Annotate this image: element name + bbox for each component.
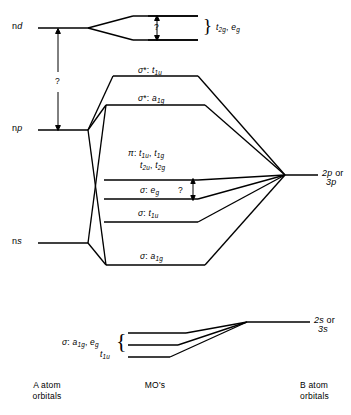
- ao-label-ns-s: s: [17, 236, 22, 246]
- corr-np-to-sigma-star-t1u: [88, 76, 113, 130]
- corr-sigma-star-t1u-to-2p: [198, 76, 285, 175]
- ao-label-3p: 3p: [326, 178, 336, 187]
- ao-label-np: np: [12, 124, 22, 133]
- mo-label-pi-block-line2: t2u, t2g: [140, 161, 165, 171]
- mo-label-sigma-t1u: σ: t1u: [138, 209, 159, 219]
- mo-gap-question-mark: ?: [178, 185, 183, 195]
- mo-energy-diagram: nd np ns ? ? } t2g, eg σ*: t1u σ*: a1g π…: [0, 0, 351, 415]
- mo-label-pi-block-line1: π: t1u, t1g: [128, 149, 164, 159]
- ao-label-nd-d: d: [17, 21, 22, 31]
- nd-split-brace: }: [203, 16, 212, 35]
- caption-left: A atom orbitals: [12, 380, 82, 401]
- ao-label-2p-or: or: [335, 168, 343, 178]
- lower-mo-brace: {: [116, 330, 127, 352]
- corr-lower-1-to-2s: [186, 322, 247, 333]
- caption-right: B atom orbitals: [300, 380, 350, 401]
- caption-left-line2: orbitals: [32, 391, 61, 401]
- mo-diagram-canvas: [0, 0, 351, 415]
- caption-right-line1: B atom: [300, 380, 328, 390]
- corr-lower-3-to-2s: [170, 322, 247, 357]
- caption-center: MO's: [125, 380, 185, 391]
- nd-split-lower-leader: [88, 28, 133, 40]
- caption-left-line1: A atom: [33, 380, 61, 390]
- nd-split-question-mark: ?: [154, 22, 159, 32]
- nd-split-group-label: t2g, eg: [216, 23, 240, 33]
- mo-gap-arrow-head-down: [191, 196, 195, 201]
- corr-sigma-a1g-to-2p: [205, 175, 285, 265]
- ao-label-np-p: p: [17, 123, 22, 133]
- mo-label-sigma-star-a1g: σ*: a1g: [138, 94, 164, 104]
- caption-right-line2: orbitals: [300, 391, 329, 401]
- nd-split-upper-leader: [88, 16, 133, 28]
- corr-sigma-star-a1g-to-2p: [205, 105, 285, 175]
- caption-center-line1: MO's: [145, 380, 165, 390]
- lower-mo-label-line1: σ: a1g, eg: [62, 338, 99, 348]
- ao-label-3s: 3s: [318, 325, 328, 334]
- ao-label-2p-or-3p: 2p or 3p: [322, 169, 344, 188]
- ao-label-ns: ns: [12, 237, 22, 246]
- ao-label-2s-or-3s: 2s or 3s: [314, 316, 335, 335]
- left-gap-question-mark: ?: [55, 76, 60, 86]
- corr-sigma-t1u-to-2p: [198, 175, 285, 222]
- mo-label-sigma-a1g: σ: a1g: [140, 252, 163, 262]
- lower-mo-label-line2: t1u: [100, 350, 110, 360]
- mo-label-sigma-eg: σ: eg: [140, 186, 159, 196]
- mo-gap-arrow-head-up: [191, 179, 195, 184]
- left-gap-arrow-head-up: [56, 29, 61, 34]
- mo-label-sigma-star-t1u: σ*: t1u: [138, 66, 162, 76]
- corr-lower-2-to-2s: [178, 322, 247, 345]
- ao-label-nd: nd: [12, 22, 22, 31]
- corr-np-to-sigma-a1g: [88, 130, 106, 265]
